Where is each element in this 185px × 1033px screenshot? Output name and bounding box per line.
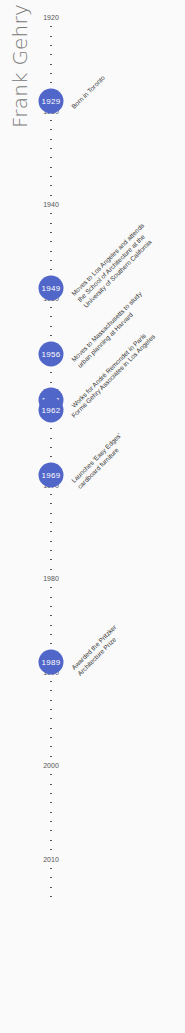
- year-tick: [50, 737, 52, 738]
- year-tick: [50, 241, 52, 242]
- year-tick: [50, 587, 52, 588]
- year-tick: [50, 45, 52, 46]
- event-marker: 1929: [39, 89, 64, 114]
- year-tick: [50, 326, 52, 327]
- timeline-axis: 1920193019401950196019701980199020002010…: [0, 0, 185, 1033]
- year-tick: [50, 756, 52, 757]
- year-tick: [50, 148, 52, 149]
- year-tick: [50, 746, 52, 747]
- year-tick: [50, 176, 52, 177]
- year-label: 2000: [43, 762, 59, 769]
- event-description: Launches 'Easy Edges': [70, 432, 124, 486]
- year-tick: [50, 606, 52, 607]
- year-tick: [50, 690, 52, 691]
- year-tick: [50, 372, 52, 373]
- year-tick: [50, 54, 52, 55]
- year-tick: [50, 569, 52, 570]
- event-marker: 1956: [39, 341, 64, 366]
- year-tick: [50, 541, 52, 542]
- year-tick: [50, 840, 52, 841]
- year-tick: [50, 447, 52, 448]
- year-tick: [50, 896, 52, 897]
- year-tick: [50, 812, 52, 813]
- year-tick: [50, 456, 52, 457]
- year-tick: [50, 615, 52, 616]
- year-label: 1980: [43, 575, 59, 582]
- year-tick: [50, 195, 52, 196]
- year-tick: [50, 82, 52, 83]
- year-tick: [50, 793, 52, 794]
- year-tick: [50, 634, 52, 635]
- year-tick: [50, 26, 52, 27]
- year-tick: [50, 120, 52, 121]
- year-tick: [50, 718, 52, 719]
- year-tick: [50, 887, 52, 888]
- year-tick: [50, 531, 52, 532]
- year-tick: [50, 64, 52, 65]
- year-tick: [50, 728, 52, 729]
- year-tick: [50, 849, 52, 850]
- year-tick: [50, 269, 52, 270]
- year-label: 1940: [43, 201, 59, 208]
- year-tick: [50, 382, 52, 383]
- year-tick: [50, 821, 52, 822]
- year-tick: [50, 223, 52, 224]
- year-tick: [50, 877, 52, 878]
- year-tick: [50, 784, 52, 785]
- year-tick: [50, 774, 52, 775]
- year-tick: [50, 232, 52, 233]
- event-marker: 1962: [39, 397, 64, 422]
- year-tick: [50, 139, 52, 140]
- year-tick: [50, 251, 52, 252]
- year-tick: [50, 307, 52, 308]
- event-description: Born in Toronto: [70, 74, 107, 111]
- year-tick: [50, 260, 52, 261]
- year-label: 2010: [43, 855, 59, 862]
- year-tick: [50, 559, 52, 560]
- year-tick: [50, 428, 52, 429]
- year-tick: [50, 213, 52, 214]
- year-tick: [50, 830, 52, 831]
- year-tick: [50, 802, 52, 803]
- year-tick: [50, 503, 52, 504]
- year-tick: [50, 36, 52, 37]
- year-label: 1920: [43, 14, 59, 21]
- year-tick: [50, 597, 52, 598]
- year-tick: [50, 167, 52, 168]
- year-tick: [50, 73, 52, 74]
- year-tick: [50, 625, 52, 626]
- event-marker: 1969: [39, 463, 64, 488]
- year-tick: [50, 316, 52, 317]
- year-tick: [50, 494, 52, 495]
- event-marker: 1949: [39, 276, 64, 301]
- year-tick: [50, 438, 52, 439]
- year-tick: [50, 185, 52, 186]
- year-tick: [50, 868, 52, 869]
- year-tick: [50, 550, 52, 551]
- year-tick: [50, 522, 52, 523]
- event-description: Works for André Remondet in Paris: [70, 332, 148, 410]
- year-tick: [50, 129, 52, 130]
- year-tick: [50, 643, 52, 644]
- year-tick: [50, 335, 52, 336]
- year-tick: [50, 681, 52, 682]
- year-tick: [50, 513, 52, 514]
- year-tick: [50, 700, 52, 701]
- event-marker: 1989: [39, 650, 64, 675]
- year-tick: [50, 709, 52, 710]
- year-tick: [50, 157, 52, 158]
